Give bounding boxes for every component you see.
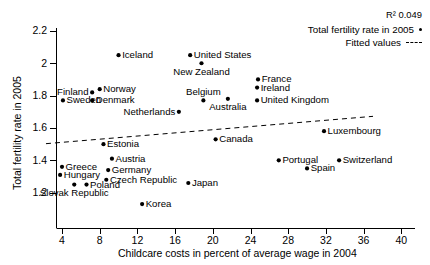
x-tick-label: 16 — [169, 235, 181, 246]
x-axis-ticks — [63, 229, 402, 235]
data-point-label: Canada — [219, 134, 253, 144]
data-point-label: Netherlands — [124, 107, 176, 117]
x-tick-label: 36 — [358, 235, 370, 246]
x-tick-label: 28 — [282, 235, 294, 246]
x-tick-label: 32 — [320, 235, 332, 246]
data-point-label: Spain — [311, 163, 336, 173]
x-axis-title: Childcare costs in percent of average wa… — [118, 247, 357, 259]
y-tick-label: 2 — [41, 58, 47, 69]
x-tick-label: 4 — [59, 235, 65, 246]
legend-dashed-line-icon — [406, 42, 422, 43]
x-tick-label: 12 — [132, 235, 144, 246]
y-axis-title: Total fertility rate in 2005 — [11, 76, 23, 190]
data-point-label: Japan — [192, 178, 218, 188]
y-axis-ticks — [50, 32, 57, 194]
y-tick-label: 1.6 — [32, 122, 47, 133]
legend-entry-fitted: Fitted values — [345, 38, 422, 48]
data-point-label: Ireland — [261, 83, 290, 93]
legend-fitted-label: Fitted values — [345, 37, 401, 48]
data-point-label: Switzerland — [343, 155, 393, 165]
data-point-label: New Zealand — [173, 67, 230, 77]
data-point-label: Korea — [146, 199, 172, 209]
data-point-label: Iceland — [122, 50, 153, 60]
data-point-label: Belgium — [186, 87, 221, 97]
y-tick-label: 2.2 — [32, 25, 47, 36]
data-point-label: Austria — [116, 154, 146, 164]
r-squared-annotation: R² 0.049 — [386, 9, 422, 20]
data-point-label: Denmark — [96, 95, 135, 105]
legend-series-label: Total fertility rate in 2005 — [308, 24, 414, 35]
scatter-plot-figure: 1.21.41.61.822.2 481216202428323640 Icel… — [0, 0, 430, 265]
data-point-label: United States — [194, 50, 252, 60]
y-tick-label: 1.4 — [32, 155, 47, 166]
x-tick-label: 20 — [207, 235, 219, 246]
x-tick-label: 40 — [395, 235, 407, 246]
x-tick-label: 8 — [97, 235, 103, 246]
data-point-label: Poland — [90, 180, 120, 190]
data-point-label: Australia — [209, 102, 246, 112]
y-tick-label: 1.8 — [32, 90, 47, 101]
data-point-label: Czech Republic — [110, 175, 177, 185]
data-point-label: Luxembourg — [328, 126, 381, 136]
data-point-label: Estonia — [107, 139, 139, 149]
data-point-label: United Kingdom — [261, 95, 329, 105]
x-tick-label: 24 — [245, 235, 257, 246]
legend-dot-icon — [419, 28, 422, 31]
legend-entry-series: Total fertility rate in 2005 — [308, 25, 422, 35]
data-point-label: Norway — [103, 84, 136, 94]
